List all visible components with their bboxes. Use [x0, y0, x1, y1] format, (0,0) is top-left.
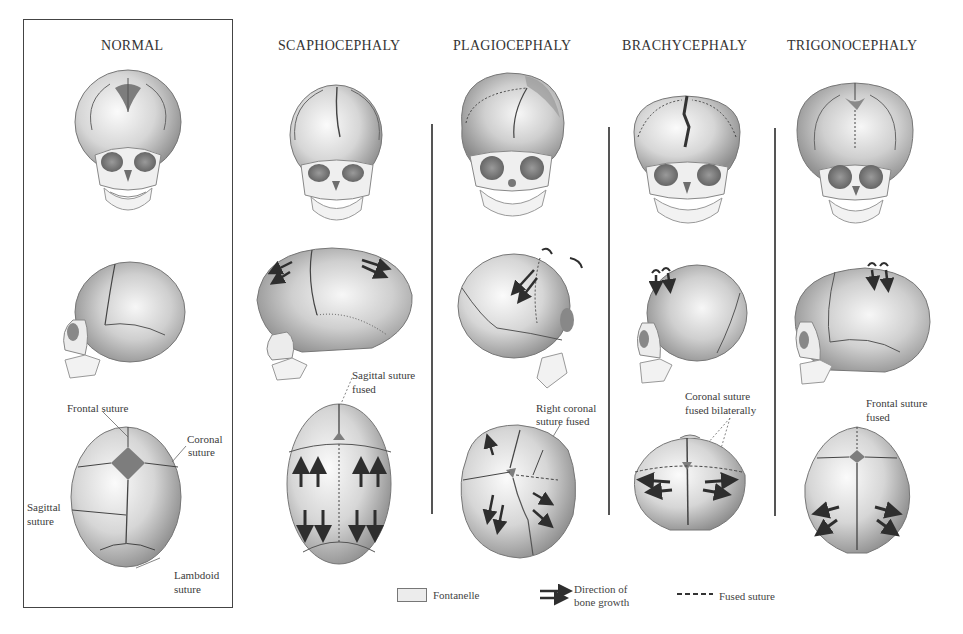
label-coronal-bilateral-1: Coronal suture [685, 390, 750, 402]
label-frontal-suture: Frontal suture [67, 402, 128, 414]
label-coronal-bilateral-2: fused bilaterally [685, 404, 756, 416]
legend-growth-label-1: Direction of [574, 583, 627, 595]
legend-fused-label: Fused suture [719, 590, 775, 602]
label-frontal-fused-1: Frontal suture [866, 397, 927, 409]
label-coronal-suture-2: suture [188, 446, 215, 458]
legend-fontanelle-label: Fontanelle [433, 589, 479, 601]
label-sagittal-fused-2: fused [352, 383, 376, 395]
label-right-coronal-1: Right coronal [536, 402, 596, 414]
label-frontal-fused-2: fused [866, 411, 890, 423]
skull-top-scaphocephaly [283, 402, 398, 577]
label-sagittal-fused-1: Sagittal suture [352, 369, 415, 381]
legend-fused-suture-icon [676, 590, 714, 598]
skull-top-brachycephaly [630, 430, 750, 540]
label-lambdoid-suture-1: Lambdoid [174, 569, 219, 581]
skull-top-plagiocephaly [458, 420, 583, 565]
label-right-coronal-2: suture fused [536, 415, 589, 427]
label-sagittal-suture-2: suture [27, 515, 54, 527]
legend-fontanelle-swatch [397, 588, 427, 602]
label-sagittal-suture-1: Sagittal [27, 501, 61, 513]
skull-top-trigonocephaly [797, 425, 917, 560]
legend-growth-label-2: bone growth [574, 596, 629, 608]
label-coronal-suture-1: Coronal [187, 433, 222, 445]
label-lambdoid-suture-2: suture [174, 583, 201, 595]
legend-growth-arrow-icon [538, 586, 574, 604]
